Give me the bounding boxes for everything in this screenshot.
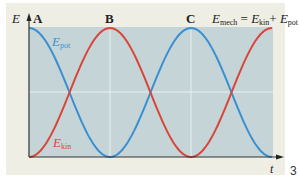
page-number: 3 — [290, 164, 297, 178]
energy-chart — [0, 0, 299, 184]
y-axis-label: E — [12, 12, 20, 25]
equation-label: Emech = Ekin+ Epot — [212, 12, 298, 27]
epot-label: Epot — [52, 35, 70, 50]
ekin-label: Ekin — [53, 136, 71, 151]
x-axis-label: t — [270, 163, 273, 175]
point-c-label: C — [186, 12, 195, 25]
y-axis-arrow-icon — [27, 13, 32, 21]
point-b-label: B — [105, 12, 114, 25]
point-a-label: A — [33, 12, 42, 25]
x-axis-arrow-icon — [276, 155, 284, 160]
